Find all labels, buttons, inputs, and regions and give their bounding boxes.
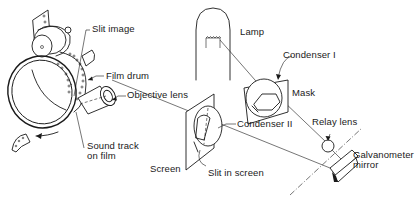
label-slit-in-screen: Slit in screen xyxy=(208,168,264,178)
optical-sound-recorder-diagram: Slit image Film drum Objective lens Soun… xyxy=(0,0,417,205)
label-relay-lens: Relay lens xyxy=(312,117,357,127)
label-condenser-2: Condenser II xyxy=(237,119,293,129)
relay-lens xyxy=(322,140,334,152)
label-film-drum: Film drum xyxy=(106,71,149,81)
label-condenser-1: Condenser I xyxy=(283,50,336,60)
lamp xyxy=(196,8,230,80)
label-lamp: Lamp xyxy=(240,27,264,37)
screen-and-condenser-2 xyxy=(186,94,222,170)
objective-lens xyxy=(78,84,119,114)
label-slit-image: Slit image xyxy=(92,24,135,34)
label-objective-lens: Objective lens xyxy=(127,90,188,100)
film-drum-assembly xyxy=(0,10,95,152)
label-mask: Mask xyxy=(292,88,315,98)
label-galvanometer-line2: mirror xyxy=(353,160,378,170)
label-screen: Screen xyxy=(150,164,181,174)
label-sound-track-line2: on film xyxy=(87,151,116,161)
